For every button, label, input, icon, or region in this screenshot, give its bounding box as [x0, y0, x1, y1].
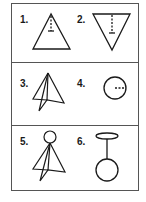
shape-number-2: 2. [77, 14, 86, 25]
inverted-triangle-icon [93, 14, 130, 50]
shape-number-6: 6. [77, 136, 86, 147]
shape-number-5: 5. [20, 136, 29, 147]
figure-frame [12, 4, 139, 191]
cone-with-head-icon [33, 131, 65, 181]
shape-figure: 1. 2. 3. 4. 5. [0, 0, 146, 202]
folded-cone-icon [33, 73, 64, 111]
cell-5: 5. [20, 131, 65, 181]
upright-triangle-icon [33, 14, 70, 49]
shape-number-4: 4. [77, 78, 86, 89]
shape-number-1: 1. [20, 14, 29, 25]
circle-radius-icon [104, 77, 126, 99]
halo-circle-icon [96, 133, 118, 181]
shape-number-3: 3. [20, 78, 29, 89]
cell-6: 6. [77, 133, 118, 181]
cell-2: 2. [77, 14, 130, 50]
cell-3: 3. [20, 73, 64, 111]
cell-1: 1. [20, 14, 70, 49]
cell-4: 4. [77, 77, 126, 99]
